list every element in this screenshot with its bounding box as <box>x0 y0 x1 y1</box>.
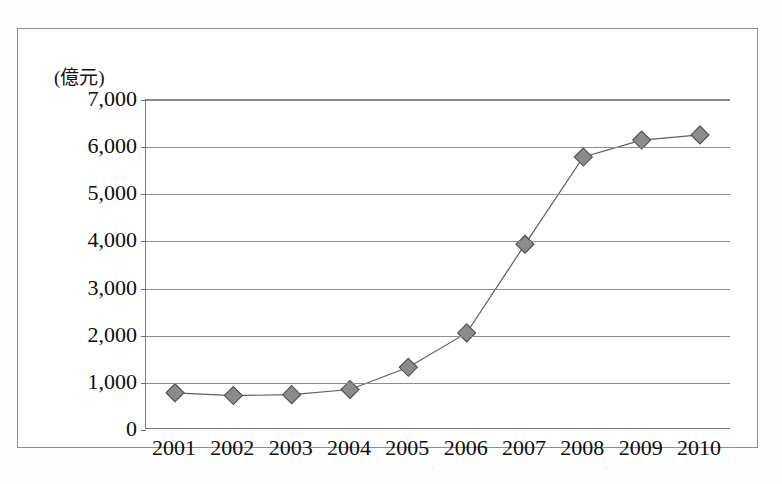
data-point-marker <box>224 387 242 405</box>
y-axis-tick <box>141 383 146 384</box>
data-point-marker <box>166 384 184 402</box>
x-axis-tick-label: 2008 <box>560 435 604 461</box>
x-axis-tick-label: 2010 <box>677 435 721 461</box>
gridline <box>146 383 730 384</box>
y-axis-tick-label: 2,000 <box>45 322 137 348</box>
y-axis-tick <box>141 241 146 242</box>
x-axis-tick-label: 2003 <box>269 435 313 461</box>
line-series-path <box>175 135 700 396</box>
y-axis-tick-label: 4,000 <box>45 227 137 253</box>
y-axis-tick-labels: 01,0002,0003,0004,0005,0006,0007,000 <box>37 99 137 429</box>
x-axis-tick-label: 2009 <box>619 435 663 461</box>
data-point-marker <box>399 358 417 376</box>
gridline <box>146 194 730 195</box>
y-axis-unit-label: (億元) <box>54 62 105 89</box>
x-axis-tick-label: 2007 <box>502 435 546 461</box>
data-point-marker <box>458 324 476 342</box>
x-axis-tick-label: 2005 <box>385 435 429 461</box>
x-axis-tick-label: 2006 <box>444 435 488 461</box>
y-axis-tick <box>141 336 146 337</box>
scan-artifact <box>120 462 660 476</box>
data-point-marker <box>691 126 709 144</box>
data-point-markers <box>166 126 709 405</box>
line-series-layer <box>146 100 731 430</box>
y-axis-tick <box>141 430 146 431</box>
gridline <box>146 147 730 148</box>
y-axis-tick-label: 7,000 <box>45 86 137 112</box>
scanned-page: (億元) 01,0002,0003,0004,0005,0006,0007,00… <box>0 0 782 484</box>
y-axis-tick-label: 3,000 <box>45 275 137 301</box>
y-axis-tick-label: 1,000 <box>45 369 137 395</box>
x-axis-tick-label: 2001 <box>152 435 196 461</box>
data-point-marker <box>283 386 301 404</box>
y-axis-tick-label: 5,000 <box>45 180 137 206</box>
y-axis-tick-label: 6,000 <box>45 133 137 159</box>
plot-area <box>145 99 730 429</box>
gridline <box>146 100 730 101</box>
gridline <box>146 241 730 242</box>
y-axis-tick <box>141 289 146 290</box>
y-axis-tick <box>141 100 146 101</box>
x-axis-tick-label: 2004 <box>327 435 371 461</box>
data-point-marker <box>516 235 534 253</box>
y-axis-tick-label: 0 <box>45 416 137 442</box>
gridline <box>146 336 730 337</box>
gridline <box>146 289 730 290</box>
chart-figure-frame: (億元) 01,0002,0003,0004,0005,0006,0007,00… <box>17 28 758 448</box>
x-axis-tick-label: 2002 <box>210 435 254 461</box>
y-axis-tick <box>141 147 146 148</box>
data-point-marker <box>574 148 592 166</box>
y-axis-tick <box>141 194 146 195</box>
